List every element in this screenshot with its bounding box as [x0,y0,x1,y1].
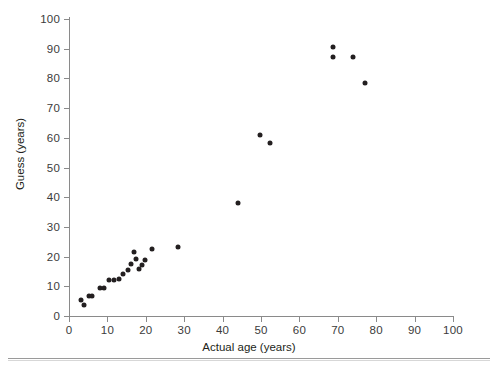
data-point [128,262,133,267]
data-point [350,54,355,59]
x-tick-label: 20 [126,324,166,336]
data-point [143,257,148,262]
x-tick-label: 70 [318,324,358,336]
x-tick-label: 100 [433,324,473,336]
y-tick-label: 50 [20,162,60,174]
x-tick-label: 60 [279,324,319,336]
data-point [116,276,121,281]
data-point [176,245,181,250]
footer-rule [8,358,490,359]
plot-area [69,19,453,316]
data-point [331,54,336,59]
data-point [139,262,144,267]
x-tick-mark [223,317,224,322]
data-point [235,201,240,206]
y-tick-label: 30 [20,221,60,233]
x-tick-label: 30 [164,324,204,336]
footer-rule-shadow [8,360,490,361]
y-tick-label: 40 [20,191,60,203]
y-tick-label: 0 [20,310,60,322]
y-tick-label: 20 [20,251,60,263]
x-tick-mark [338,317,339,322]
x-tick-label: 0 [49,324,89,336]
x-axis-title: Actual age (years) [0,341,498,353]
scatter-plot-figure: 0102030405060708090100 01020304050607080… [0,0,498,368]
x-tick-mark [146,317,147,322]
x-tick-mark [69,317,70,322]
data-point [363,80,368,85]
y-axis-title: Guess (years) [14,74,26,234]
data-point [121,272,126,277]
x-tick-label: 40 [203,324,243,336]
x-tick-mark [453,317,454,322]
data-point [267,140,272,145]
x-tick-mark [107,317,108,322]
data-point [134,256,139,261]
data-point [101,286,106,291]
data-point [131,250,136,255]
x-tick-mark [299,317,300,322]
x-tick-label: 80 [356,324,396,336]
x-tick-mark [184,317,185,322]
data-point [126,267,131,272]
data-point [331,44,336,49]
data-point [81,303,86,308]
x-tick-mark [261,317,262,322]
y-tick-label: 70 [20,102,60,114]
x-tick-label: 50 [241,324,281,336]
data-point [149,246,154,251]
y-tick-label: 10 [20,280,60,292]
x-tick-label: 10 [87,324,127,336]
x-tick-mark [376,317,377,322]
x-tick-label: 90 [395,324,435,336]
data-point [257,132,262,137]
data-point [90,294,95,299]
y-tick-label: 90 [20,43,60,55]
y-tick-label: 80 [20,72,60,84]
x-tick-mark [415,317,416,322]
y-tick-label: 100 [20,13,60,25]
y-tick-label: 60 [20,132,60,144]
